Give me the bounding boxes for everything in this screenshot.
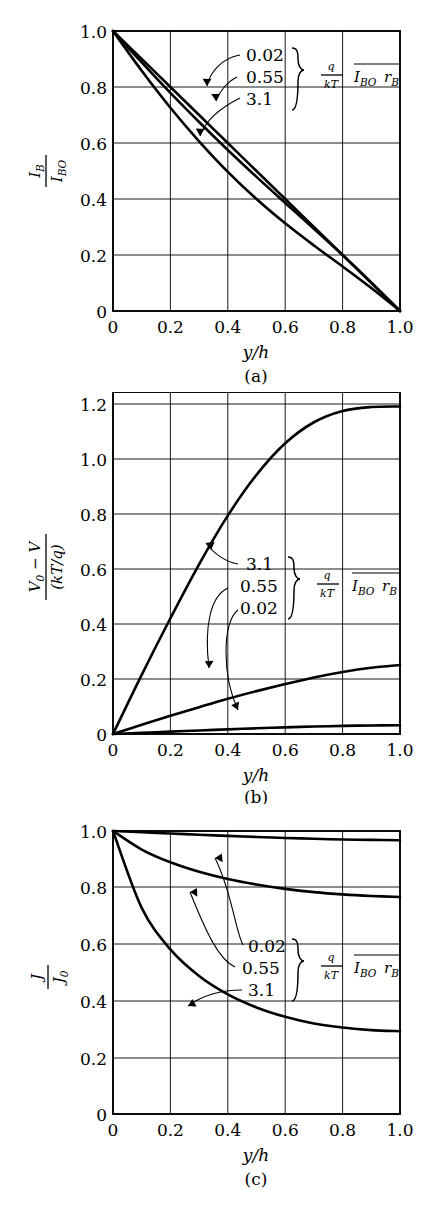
ytick-label: 0.6 <box>80 935 107 955</box>
ytick-label: 0.6 <box>80 560 107 580</box>
panel-a-xlabel: y/h <box>242 342 269 362</box>
ytick-label: 1.0 <box>80 450 107 470</box>
panel-a: 1.0 0.8 0.6 0.4 0.2 0 0 0.2 0.4 0.6 0.8 … <box>0 0 437 400</box>
annot-brace <box>292 48 304 110</box>
legend-term-2: rB <box>382 577 397 597</box>
xaxis-label: y/h <box>242 1145 269 1165</box>
panel-b-xticklabels: 0 0.2 0.4 0.6 0.8 1.0 <box>108 740 414 760</box>
ytick-label: 0.8 <box>80 78 107 98</box>
xaxis-label: y/h <box>242 765 269 785</box>
ytick-label: 0 <box>96 1105 107 1125</box>
panel-caption: (c) <box>245 1169 268 1189</box>
ylabel-numerator: J <box>28 973 46 983</box>
legend-term-1: IBO <box>353 68 377 88</box>
panel-b: 1.2 1.0 0.8 0.6 0.4 0.2 0 0 0.2 0.4 0.6 … <box>0 392 437 804</box>
panel-b-annotation: 3.1 0.55 0.02 q kT IBO rB <box>240 554 400 619</box>
panel-b-svg: 1.2 1.0 0.8 0.6 0.4 0.2 0 0 0.2 0.4 0.6 … <box>0 392 437 804</box>
ytick-label: 0 <box>96 725 107 745</box>
legend-num: q <box>327 60 334 73</box>
ylabel-denominator: J0 <box>50 970 70 986</box>
ytick-label: 0.8 <box>80 878 107 898</box>
ytick-label: 0.6 <box>80 134 107 154</box>
annot-value: 0.55 <box>246 67 284 87</box>
legend-den: kT <box>320 587 336 600</box>
legend-expression: q kT IBO rB <box>317 569 400 600</box>
panel-c-svg: 1.0 0.8 0.6 0.4 0.2 0 0 0.2 0.4 0.6 0.8 … <box>0 820 437 1208</box>
annot-value: 0.02 <box>248 936 286 956</box>
xtick-label: 1.0 <box>386 1120 413 1140</box>
xtick-label: 1.0 <box>386 740 413 760</box>
ylabel-numerator: V0 − V <box>26 540 46 593</box>
xtick-label: 0.8 <box>329 1120 356 1140</box>
figure-root: 1.0 0.8 0.6 0.4 0.2 0 0 0.2 0.4 0.6 0.8 … <box>0 0 437 1208</box>
xtick-label: 0.6 <box>272 317 299 337</box>
panel-a-xticklabels: 0 0.2 0.4 0.6 0.8 1.0 <box>108 317 414 337</box>
ytick-label: 0.4 <box>80 190 107 210</box>
ytick-label: 1.0 <box>80 822 107 842</box>
ylabel-denominator: (kT/q) <box>48 544 66 590</box>
ytick-label: 0 <box>96 302 107 322</box>
panel-a-annotation: 0.02 0.55 3.1 q kT IBO rB <box>246 45 400 110</box>
annot-value: 0.02 <box>240 598 278 618</box>
ytick-label: 0.8 <box>80 505 107 525</box>
panel-b-ylabel: V0 − V (kT/q) <box>26 534 66 600</box>
ytick-label: 1.2 <box>80 395 107 415</box>
svg-text:IB: IB <box>26 164 46 179</box>
annot-value: 3.1 <box>246 89 273 109</box>
ytick-label: 0.2 <box>80 1049 107 1069</box>
annot-value: 0.55 <box>242 958 280 978</box>
xtick-label: 0.4 <box>214 317 241 337</box>
xtick-label: 0.2 <box>157 317 184 337</box>
annot-value: 0.55 <box>240 576 278 596</box>
annot-value: 0.02 <box>246 45 284 65</box>
xtick-label: 0.6 <box>272 1120 299 1140</box>
annot-value: 3.1 <box>248 980 275 1000</box>
panel-a-ylabel: IB IBO <box>26 155 68 187</box>
ytick-label: 0.4 <box>80 615 107 635</box>
panel-c-ylabel: J J0 <box>28 965 70 989</box>
panel-c-annotation: 0.02 0.55 3.1 q kT IBO rB <box>242 936 400 1001</box>
panel-c-xticklabels: 0 0.2 0.4 0.6 0.8 1.0 <box>108 1120 414 1140</box>
panel-b-yticklabels: 1.2 1.0 0.8 0.6 0.4 0.2 0 <box>80 395 107 745</box>
panel-c-yticklabels: 1.0 0.8 0.6 0.4 0.2 0 <box>80 822 107 1125</box>
panel-a-svg: 1.0 0.8 0.6 0.4 0.2 0 0 0.2 0.4 0.6 0.8 … <box>0 0 437 400</box>
panel-a-yticklabels: 1.0 0.8 0.6 0.4 0.2 0 <box>80 22 107 322</box>
ytick-label: 1.0 <box>80 22 107 42</box>
xtick-label: 0.6 <box>272 740 299 760</box>
curve-b-0-02 <box>113 725 400 734</box>
curve-c-0-02 <box>113 831 400 840</box>
xtick-label: 0.8 <box>329 740 356 760</box>
panel-b-leaders <box>205 542 239 710</box>
legend-num: q <box>327 951 334 964</box>
legend-term-2: rB <box>384 959 399 979</box>
xtick-label: 0.2 <box>157 1120 184 1140</box>
ytick-label: 0.4 <box>80 992 107 1012</box>
xtick-label: 0 <box>108 740 119 760</box>
xtick-label: 0.4 <box>214 740 241 760</box>
xtick-label: 0.2 <box>157 740 184 760</box>
legend-num: q <box>323 569 330 582</box>
panel-c: 1.0 0.8 0.6 0.4 0.2 0 0 0.2 0.4 0.6 0.8 … <box>0 820 437 1208</box>
xtick-label: 1.0 <box>386 317 413 337</box>
legend-term-2: rB <box>384 68 399 88</box>
annot-brace <box>292 939 304 1001</box>
xaxis-label: y/h <box>242 342 269 362</box>
legend-expression: q kT IBO rB <box>321 60 400 91</box>
xtick-label: 0.4 <box>214 1120 241 1140</box>
legend-term-1: IBO <box>351 577 375 597</box>
xtick-label: 0 <box>108 1120 119 1140</box>
annot-brace <box>288 557 300 619</box>
legend-den: kT <box>324 78 340 91</box>
legend-den: kT <box>324 969 340 982</box>
xtick-label: 0 <box>108 317 119 337</box>
panel-caption: (b) <box>244 787 268 804</box>
legend-term-1: IBO <box>353 959 377 979</box>
svg-text:IBO: IBO <box>48 159 68 183</box>
panel-caption: (a) <box>244 366 267 386</box>
ytick-label: 0.2 <box>80 246 107 266</box>
legend-expression: q kT IBO rB <box>321 951 400 982</box>
annot-value: 3.1 <box>246 554 273 574</box>
ytick-label: 0.2 <box>80 670 107 690</box>
curve-b-0-55 <box>113 665 400 734</box>
xtick-label: 0.8 <box>329 317 356 337</box>
